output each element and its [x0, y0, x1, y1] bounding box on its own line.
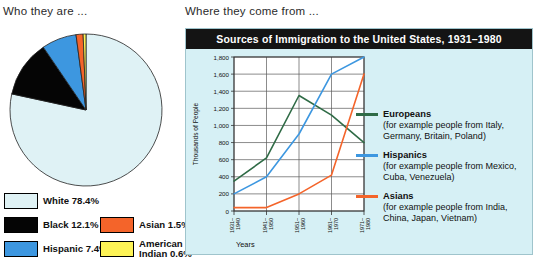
legend-label-hispanic: Hispanic 7.4%: [43, 244, 108, 254]
x-tick-label: 1931–1940: [229, 218, 241, 233]
y-tick-label: 200: [219, 190, 230, 197]
y-tick-label: 1,200: [214, 105, 230, 112]
pie-chart-svg: [2, 32, 174, 188]
x-axis-label: Years: [236, 240, 255, 249]
y-tick-label: 1,600: [214, 71, 230, 78]
series-sub-hispanics: (for example people from Mexico, Cuba, V…: [383, 161, 517, 182]
series-swatch-asians: [356, 195, 378, 198]
legend-item-asian: Asian 1.5%: [100, 217, 190, 233]
series-sub-asians: (for example people from India, China, J…: [383, 202, 508, 223]
series-label-asians: Asians: [383, 191, 414, 201]
series-swatch-hispanics: [356, 154, 378, 157]
series-name-europeans: Europeans (for example people from Italy…: [383, 109, 532, 142]
x-tick-label: 1951–1960: [294, 218, 306, 233]
legend-label-black: Black 12.1%: [43, 220, 98, 230]
series-legend-item-asians: Asians (for example people from India, C…: [356, 191, 532, 224]
legend-item-hispanic: Hispanic 7.4%: [4, 241, 108, 257]
y-tick-label: 600: [219, 156, 230, 163]
series-name-hispanics: Hispanics (for example people from Mexic…: [383, 150, 532, 183]
pie-panel: Who they are ... White 78.4% Black 12.1%…: [0, 0, 182, 261]
y-tick-label: 400: [219, 173, 230, 180]
chart-title-bar: Sources of Immigration to the United Sta…: [186, 29, 532, 49]
legend-swatch-asian: [100, 217, 134, 233]
legend-item-white: White 78.4%: [4, 193, 99, 209]
chart-title: Sources of Immigration to the United Sta…: [216, 33, 501, 45]
y-tick-label: 1,000: [214, 122, 230, 129]
pie-chart: [2, 32, 174, 188]
series-sub-europeans: (for example people from Italy, Germany,…: [383, 120, 504, 141]
y-tick-label: 800: [219, 139, 230, 146]
legend-swatch-hispanic: [4, 241, 38, 257]
y-tick-label: 1,800: [214, 54, 230, 61]
immigration-chart: Sources of Immigration to the United Sta…: [185, 28, 533, 255]
series-name-asians: Asians (for example people from India, C…: [383, 191, 532, 224]
legend-label-asian: Asian 1.5%: [139, 220, 190, 230]
series-swatch-europeans: [356, 113, 378, 116]
series-legend-item-hispanics: Hispanics (for example people from Mexic…: [356, 150, 532, 183]
y-tick-label: 0: [226, 208, 230, 215]
y-axis-label: Thousands of People: [192, 103, 200, 166]
pie-legend: White 78.4% Black 12.1% Hispanic 7.4% As…: [4, 193, 182, 259]
series-legend-item-europeans: Europeans (for example people from Italy…: [356, 109, 532, 142]
line-section-heading: Where they come from ...: [185, 5, 319, 17]
legend-item-black: Black 12.1%: [4, 217, 98, 233]
pie-section-heading: Who they are ...: [3, 5, 87, 17]
legend-swatch-black: [4, 217, 38, 233]
series-legend: Europeans (for example people from Italy…: [356, 109, 532, 232]
x-tick-label: 1941–1950: [262, 218, 274, 233]
series-label-hispanics: Hispanics: [383, 150, 427, 160]
x-tick-label: 1961–1970: [327, 218, 339, 233]
legend-swatch-white: [4, 193, 38, 209]
line-chart-panel: Where they come from ... Sources of Immi…: [185, 0, 535, 261]
y-tick-label: 1,400: [214, 88, 230, 95]
legend-swatch-american-indian: [100, 241, 134, 257]
series-label-europeans: Europeans: [383, 109, 431, 119]
legend-label-white: White 78.4%: [43, 196, 99, 206]
